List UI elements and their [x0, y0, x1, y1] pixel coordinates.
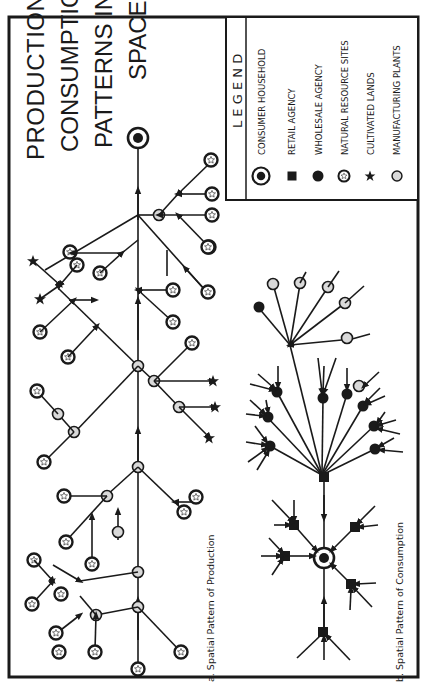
- manufacturing-plant-icon: [392, 171, 402, 181]
- consumption-network: [246, 271, 403, 660]
- caption-production: a. Spatial Pattern of Production: [205, 534, 216, 682]
- legend-label: CONSUMER HOUSEHOLD: [257, 48, 267, 155]
- legend-label: CULTIVATED LANDS: [366, 72, 376, 155]
- legend-label: MANUFACTURING PLANTS: [392, 45, 402, 155]
- natural-resource-icon: [338, 170, 349, 181]
- retail-agency-icon: [288, 172, 297, 181]
- consumer-household-node-b: [314, 548, 334, 568]
- legend-label: NATURAL RESOURCE SITES: [340, 40, 350, 155]
- title-line-3: PATTERNS IN: [90, 0, 117, 148]
- legend-label: WHOLESALE AGENCY: [314, 63, 324, 155]
- production-network: [26, 128, 222, 676]
- legend-label: RETAIL AGENCY: [287, 88, 297, 155]
- production-consumption-figure: PRODUCTION & CONSUMPTION PATTERNS IN SPA…: [0, 0, 428, 688]
- caption-consumption: b. Spatial Pattern of Consumption: [394, 522, 405, 682]
- legend: L E G E N D CONSUMER HOUSEHOLD RETAIL AG…: [226, 17, 418, 200]
- wholesale-agency-icon: [313, 171, 324, 182]
- consumer-household-node: [128, 128, 148, 148]
- consumer-household-icon: [253, 168, 270, 185]
- title-line-4: SPACE: [124, 0, 151, 80]
- title-line-2: CONSUMPTION: [56, 0, 83, 152]
- title-line-1: PRODUCTION &: [22, 0, 49, 160]
- legend-heading: L E G E N D: [230, 54, 245, 128]
